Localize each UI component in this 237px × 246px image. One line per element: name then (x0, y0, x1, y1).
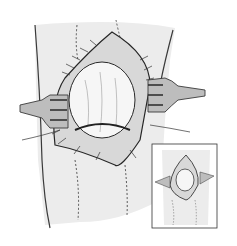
inset-view (152, 144, 217, 228)
illustration-canvas (0, 0, 237, 246)
knee-surgery-illustration (0, 0, 237, 246)
